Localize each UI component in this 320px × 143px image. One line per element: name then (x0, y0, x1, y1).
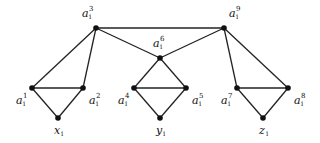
label-subscript: i (160, 43, 163, 51)
label-subscript: i (23, 100, 26, 108)
label-base: z (258, 124, 265, 137)
node-x (55, 115, 61, 121)
node-a8 (285, 85, 291, 91)
edge-a4-y (134, 88, 160, 118)
label-subscript: i (61, 130, 64, 138)
label-base: a (89, 94, 96, 107)
node-label-y: y (155, 124, 163, 137)
node-label-a5: a (192, 94, 199, 107)
node-y (157, 115, 163, 121)
label-subscript: i (163, 130, 166, 138)
label-base: a (229, 7, 236, 20)
node-label-a6: a (153, 37, 160, 50)
edge-a1-x (32, 88, 58, 118)
edge-a9-a8 (224, 28, 288, 88)
label-superscript: 4 (125, 92, 130, 100)
edge-a8-z (263, 88, 288, 118)
label-superscript: 2 (96, 92, 100, 100)
label-subscript: i (199, 100, 202, 108)
node-a3 (93, 25, 99, 31)
label-superscript: 1 (23, 92, 27, 100)
edge-a3-a1 (32, 28, 96, 88)
label-superscript: 6 (160, 35, 165, 43)
node-label-a7: a (221, 94, 228, 107)
edge-a7-z (237, 88, 263, 118)
edge-a5-y (160, 88, 186, 118)
label-base: y (155, 124, 163, 137)
edge-a6-a4 (134, 58, 160, 88)
node-a1 (29, 85, 35, 91)
label-subscript: i (228, 100, 231, 108)
label-subscript: i (96, 100, 99, 108)
graph-diagram: a3ia9ia6ia1ia2ixia4ia5iyia7ia8izi (0, 0, 320, 143)
edge-a3-a2 (83, 28, 96, 88)
node-a5 (183, 85, 189, 91)
node-a9 (221, 25, 227, 31)
label-subscript: i (89, 13, 92, 21)
edge-a6-a5 (160, 58, 186, 88)
label-superscript: 8 (301, 92, 305, 100)
edge-a9-a6 (160, 28, 224, 58)
label-subscript: i (301, 100, 304, 108)
node-label-z: z (258, 124, 265, 137)
node-label-a9: a (229, 7, 236, 20)
edge-a2-x (58, 88, 83, 118)
label-superscript: 9 (236, 5, 240, 13)
node-label-a2: a (89, 94, 96, 107)
label-base: a (294, 94, 301, 107)
node-label-a3: a (82, 7, 89, 20)
label-base: a (192, 94, 199, 107)
label-base: a (153, 37, 160, 50)
node-a2 (80, 85, 86, 91)
label-base: a (221, 94, 228, 107)
label-base: x (54, 124, 61, 137)
node-label-a1: a (16, 94, 23, 107)
node-a6 (157, 55, 163, 61)
node-label-a8: a (294, 94, 301, 107)
label-subscript: i (266, 130, 269, 138)
node-z (260, 115, 266, 121)
label-superscript: 3 (89, 5, 93, 13)
label-superscript: 5 (199, 92, 203, 100)
label-subscript: i (125, 100, 128, 108)
node-label-a4: a (118, 94, 125, 107)
label-subscript: i (236, 13, 239, 21)
node-a4 (131, 85, 137, 91)
node-label-x: x (54, 124, 61, 137)
label-superscript: 7 (228, 92, 232, 100)
label-base: a (82, 7, 89, 20)
edge-a9-a7 (224, 28, 237, 88)
node-a7 (234, 85, 240, 91)
edge-a3-a6 (96, 28, 160, 58)
label-base: a (16, 94, 23, 107)
label-base: a (118, 94, 125, 107)
